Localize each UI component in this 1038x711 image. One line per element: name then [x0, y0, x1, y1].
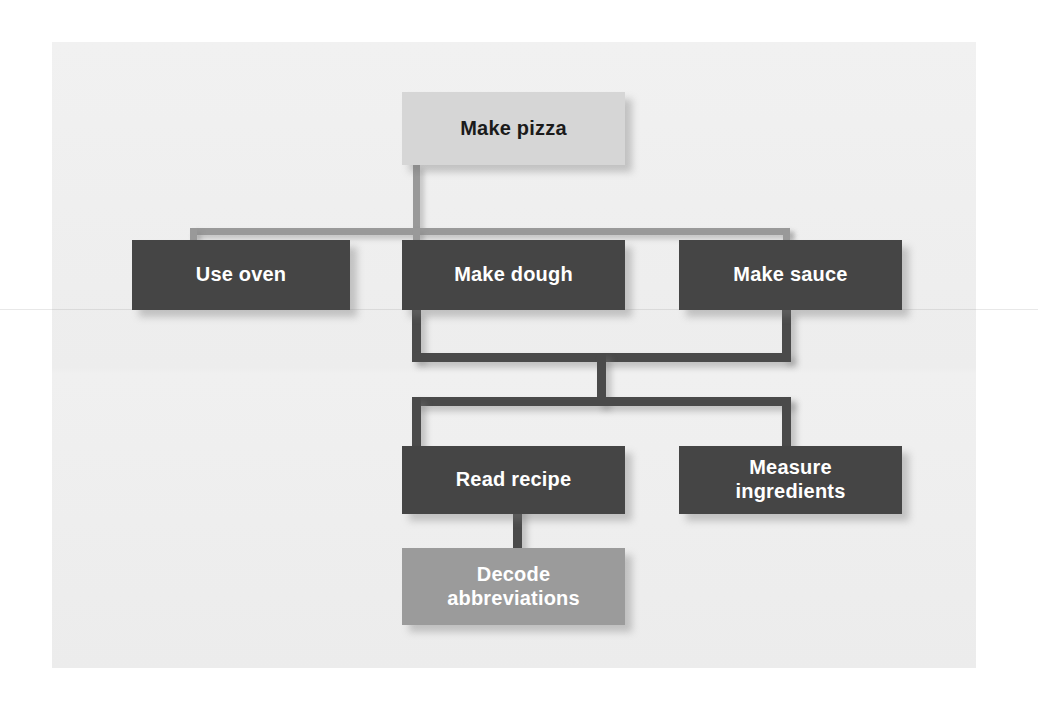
- node-make-pizza-label: Make pizza: [460, 117, 566, 141]
- node-use-oven-label: Use oven: [196, 263, 287, 287]
- node-read-recipe-label: Read recipe: [456, 468, 572, 492]
- node-measure-ingredients[interactable]: Measure ingredients: [679, 446, 902, 514]
- diagram-canvas: Make pizza Use oven Make dough Make sauc…: [52, 42, 976, 668]
- node-use-oven[interactable]: Use oven: [132, 240, 350, 310]
- connector-drop-read-recipe: [412, 397, 421, 451]
- connector-drop-measure-ingredients: [782, 397, 791, 451]
- node-read-recipe[interactable]: Read recipe: [402, 446, 625, 514]
- connector-make-pizza-stem: [413, 165, 420, 228]
- connector-level2-bus: [412, 397, 791, 406]
- connector-level1-bus: [190, 228, 790, 235]
- diagram-page: Make pizza Use oven Make dough Make sauc…: [0, 0, 1038, 711]
- node-make-pizza[interactable]: Make pizza: [402, 92, 625, 165]
- node-make-sauce[interactable]: Make sauce: [679, 240, 902, 310]
- node-make-dough[interactable]: Make dough: [402, 240, 625, 310]
- node-decode-abbreviations-label: Decode abbreviations: [447, 563, 580, 610]
- node-decode-abbreviations[interactable]: Decode abbreviations: [402, 548, 625, 625]
- node-measure-ingredients-label: Measure ingredients: [736, 456, 846, 503]
- node-make-sauce-label: Make sauce: [733, 263, 847, 287]
- node-make-dough-label: Make dough: [454, 263, 573, 287]
